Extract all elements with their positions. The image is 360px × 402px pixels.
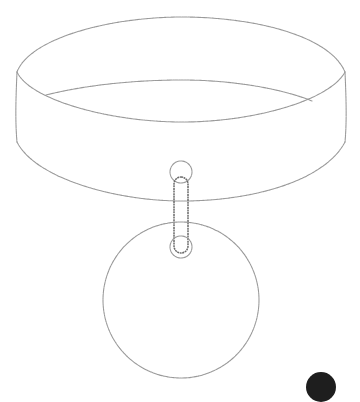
tag bbox=[103, 222, 259, 378]
tag-hole bbox=[170, 236, 192, 258]
collar-right-side bbox=[345, 72, 346, 142]
corner-mark bbox=[306, 372, 336, 402]
collar-band bbox=[16, 17, 346, 201]
tag-disc bbox=[103, 222, 259, 378]
ring-bar bbox=[174, 177, 188, 253]
collar-inner-rim bbox=[46, 80, 312, 101]
ring-top-loop bbox=[170, 161, 192, 183]
collar-top-back-edge bbox=[17, 17, 345, 72]
collar-bottom-edge bbox=[17, 142, 345, 201]
collar-left-side bbox=[16, 72, 17, 142]
